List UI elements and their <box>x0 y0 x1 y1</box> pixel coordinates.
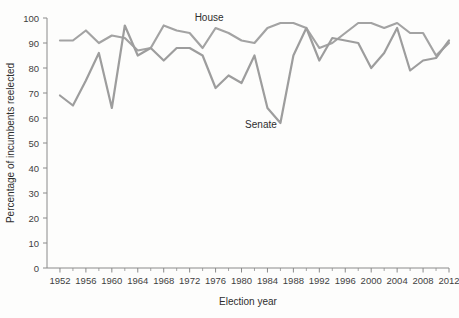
y-tick-label: 20 <box>28 213 39 224</box>
x-tick-label: 2012 <box>438 275 459 286</box>
y-tick-label: 30 <box>28 188 39 199</box>
x-tick-label: 1996 <box>335 275 356 286</box>
y-axis-ticks: 0102030405060708090100 <box>23 13 47 274</box>
series-annotations: HouseSenate <box>195 12 278 131</box>
y-axis-title: Percentage of incumbents reelected <box>5 63 16 223</box>
x-tick-label: 1984 <box>257 275 278 286</box>
x-tick-label: 1972 <box>179 275 200 286</box>
x-tick-label: 1964 <box>127 275 148 286</box>
series-line-senate <box>60 26 449 124</box>
y-tick-label: 90 <box>28 38 39 49</box>
y-tick-label: 40 <box>28 163 39 174</box>
y-tick-label: 60 <box>28 113 39 124</box>
x-tick-label: 1992 <box>309 275 330 286</box>
x-tick-label: 2008 <box>412 275 433 286</box>
x-tick-label: 2000 <box>361 275 382 286</box>
y-tick-label: 80 <box>28 63 39 74</box>
series-label-senate: Senate <box>245 119 277 130</box>
chart-container: 0102030405060708090100 19521956196019641… <box>0 0 459 318</box>
line-chart: 0102030405060708090100 19521956196019641… <box>0 0 459 318</box>
series-label-house: House <box>195 12 224 23</box>
x-tick-label: 1952 <box>49 275 70 286</box>
x-axis-ticks: 1952195619601964196819721976198019841988… <box>49 268 459 286</box>
series-lines <box>60 23 449 123</box>
x-tick-label: 1988 <box>283 275 304 286</box>
x-axis-title: Election year <box>219 296 277 307</box>
x-tick-label: 1960 <box>101 275 122 286</box>
y-tick-label: 0 <box>34 263 39 274</box>
x-tick-label: 1980 <box>231 275 252 286</box>
y-tick-label: 70 <box>28 88 39 99</box>
y-tick-label: 50 <box>28 138 39 149</box>
y-tick-label: 100 <box>23 13 39 24</box>
x-tick-label: 2004 <box>387 275 408 286</box>
y-tick-label: 10 <box>28 238 39 249</box>
x-tick-label: 1968 <box>153 275 174 286</box>
x-tick-label: 1976 <box>205 275 226 286</box>
x-tick-label: 1956 <box>75 275 96 286</box>
